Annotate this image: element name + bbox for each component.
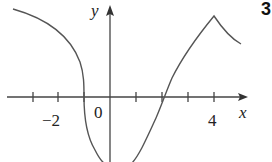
origin-label: 0 — [94, 104, 103, 121]
problem-number: 3 — [261, 0, 271, 18]
y-axis-label: y — [91, 2, 99, 19]
tick-label-neg2: −2 — [42, 112, 60, 129]
graph-figure: y x −2 0 4 3 — [0, 0, 272, 162]
graph-canvas — [0, 0, 272, 162]
tick-label-4: 4 — [208, 112, 217, 129]
function-curve — [13, 9, 241, 162]
x-axis-label: x — [239, 104, 247, 121]
